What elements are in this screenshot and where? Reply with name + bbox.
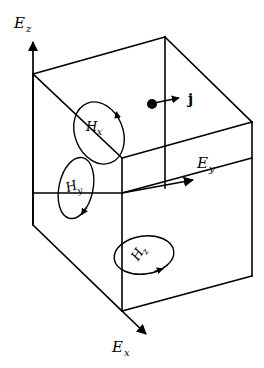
cube-edge-top-back-left: [33, 37, 165, 74]
figure-canvas: E z E y E x H x: [0, 0, 264, 368]
axis-label-y-subscript: y: [208, 163, 215, 174]
field-loop-hx: H x: [65, 94, 133, 171]
cube-field-diagram: E z E y E x H x: [0, 0, 264, 368]
field-loop-hy-arrow: [82, 207, 87, 215]
field-loop-hy-label: H y: [63, 176, 85, 199]
axis-label-y-symbol: E: [196, 154, 208, 172]
axis-label-z-symbol: E: [13, 14, 25, 32]
axis-line-x: [122, 311, 146, 334]
current-density-vector: j: [147, 91, 193, 109]
field-loop-hz-label: H z: [127, 242, 151, 265]
cube-edge-top-front-right: [122, 122, 252, 158]
axis-label-x-subscript: x: [124, 347, 130, 358]
cube-edge-bottom-back-left: [33, 225, 122, 311]
current-density-arrow: [154, 98, 179, 103]
current-density-label: j: [186, 91, 193, 107]
field-loop-hx-subscript: x: [97, 127, 102, 137]
axis-label-z-subscript: z: [25, 23, 32, 34]
cube-wireframe: [33, 37, 252, 311]
cube-edge-bottom-front: [122, 276, 252, 311]
field-loop-hx-label: H x: [85, 119, 102, 137]
cube-edge-inner-right: [122, 158, 252, 193]
axis-label-x-symbol: E: [111, 338, 123, 356]
field-loop-hz-arrow: [154, 268, 163, 271]
field-loop-hy: H y: [53, 154, 99, 222]
axis-label-z: E z: [13, 14, 32, 34]
axis-group: [33, 42, 193, 334]
axis-label-x: E x: [111, 338, 130, 358]
current-density-point: [147, 99, 157, 109]
field-loop-hy-subscript: y: [75, 184, 85, 196]
cube-edge-top-back-right: [165, 37, 252, 122]
axis-line-y: [122, 180, 193, 193]
axis-labels: E z E y E x: [13, 14, 215, 358]
cube-edge-top-front-left: [33, 74, 122, 158]
axis-label-y: E y: [196, 154, 215, 174]
